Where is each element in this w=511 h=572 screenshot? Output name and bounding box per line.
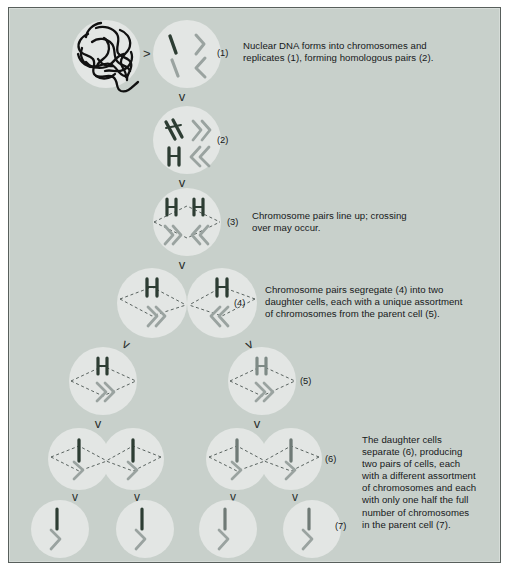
- arrow-right-icon: >: [143, 46, 151, 61]
- arrow-down-icon: v: [292, 490, 298, 504]
- caption-line: Chromosome pairs segregate (4) into two: [265, 284, 495, 296]
- haploid-cell: [31, 500, 89, 558]
- arrow-down-icon: v: [95, 416, 102, 431]
- marker-1: (1): [217, 48, 228, 58]
- arrow-down-icon: v: [179, 89, 186, 104]
- stage-7: [31, 500, 341, 558]
- haploid-cell: [283, 500, 341, 558]
- cell-membrane: [228, 347, 296, 415]
- haploid-cell: [199, 500, 257, 558]
- cell-membrane: [153, 188, 221, 256]
- cell-membrane: [199, 500, 257, 558]
- caption-line: with only one half the full: [362, 494, 502, 506]
- caption-line: Nuclear DNA forms into chromosomes and: [243, 40, 493, 52]
- stage-2: v: [153, 106, 221, 190]
- caption-line: of chromosomes and each: [362, 482, 502, 494]
- caption-line: separate (6), producing: [362, 446, 502, 458]
- cell-membrane: [283, 500, 341, 558]
- cell-membrane: [153, 106, 221, 174]
- caption-4: Chromosome pairs segregate (4) into two …: [265, 284, 495, 320]
- stage-0-nucleus: >: [72, 20, 151, 91]
- arrow-down-icon: v: [72, 490, 78, 504]
- marker-6: (6): [325, 454, 336, 464]
- arrow-down-icon: v: [179, 175, 186, 190]
- stage-1: v: [153, 20, 221, 104]
- arrow-down-left-icon: v: [120, 336, 133, 353]
- stage-4: v v: [117, 268, 257, 352]
- caption-line: of chromosomes from the parent cell (5).: [265, 308, 495, 320]
- meiosis-figure: > v: [0, 0, 511, 572]
- cell-membrane: [69, 347, 137, 415]
- arrow-down-icon: v: [254, 416, 261, 431]
- stage-6-right: v v: [206, 428, 322, 504]
- stage-5-left: v: [69, 347, 137, 431]
- haploid-cell: [116, 500, 174, 558]
- caption-line: over may occur.: [252, 222, 492, 234]
- caption-line: number of chromosomes: [362, 507, 502, 519]
- cell-membrane: [187, 268, 257, 338]
- caption-line: in the parent cell (7).: [362, 519, 502, 531]
- caption-3: Chromosome pairs line up; crossing over …: [252, 210, 492, 234]
- caption-line: with a different assortment: [362, 470, 502, 482]
- caption-line: Chromosome pairs line up; crossing: [252, 210, 492, 222]
- marker-3: (3): [227, 217, 238, 227]
- caption-line: daughter cells, each with a unique assor…: [265, 296, 495, 308]
- caption-line: replicates (1), forming homologous pairs…: [243, 52, 493, 64]
- marker-4: (4): [234, 298, 245, 308]
- caption-7: The daughter cells separate (6), produci…: [362, 434, 502, 531]
- caption-line: The daughter cells: [362, 434, 502, 446]
- marker-5: (5): [300, 376, 311, 386]
- caption-1: Nuclear DNA forms into chromosomes and r…: [243, 40, 493, 64]
- cell-membrane: [31, 500, 89, 558]
- caption-line: two pairs of cells, each: [362, 458, 502, 470]
- stage-3: v: [153, 188, 221, 272]
- cell-membrane: [153, 20, 221, 88]
- cell-membrane: [116, 500, 174, 558]
- stage-5-right: v: [228, 347, 296, 431]
- arrow-down-icon: v: [179, 257, 186, 272]
- stage-6-left: v v: [48, 428, 164, 504]
- marker-2: (2): [217, 135, 228, 145]
- marker-7: (7): [335, 521, 346, 531]
